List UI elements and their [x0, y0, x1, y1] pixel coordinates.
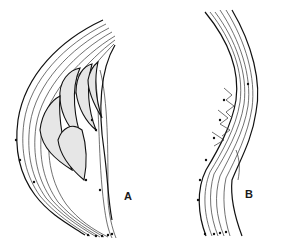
panel-a	[15, 20, 116, 238]
panel-b	[197, 10, 258, 236]
panel-label-a: A	[124, 190, 132, 202]
diagram-canvas	[0, 0, 289, 246]
panel-label-b: B	[245, 188, 253, 200]
